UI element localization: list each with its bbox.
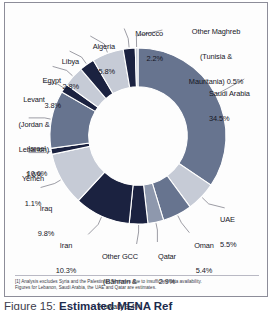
figure-caption: Figure 15: Estimated MENA Ref (4, 300, 270, 310)
slice-label-saudi-arabia-name: Saudi Arabia (209, 90, 267, 98)
figure-footnote: [1] Analysis excludes Syria and the Pale… (15, 275, 259, 291)
slice-label-iraq-name: Iraq (27, 205, 65, 213)
slice-label-levant-line1: Levant (7, 96, 61, 104)
slice-label-saudi-arabia: Saudi Arabia 34.5% (209, 73, 267, 140)
slice-label-other-maghreb-line2: (Tunisia & (167, 53, 265, 61)
slice-label-oman-name: Oman (185, 242, 223, 250)
slice-label-morocco-name: Morocco (111, 30, 163, 38)
slice-label-other-maghreb-line1: Other Maghreb (167, 28, 265, 36)
slice-label-uae: UAE 5.5% (220, 199, 262, 266)
slice-label-uae-value: 5.5% (220, 241, 262, 249)
slice-label-morocco: Morocco 2.2% (111, 13, 163, 80)
slice-label-qatar-name: Qatar (149, 253, 185, 261)
slice-label-iran-name: Iran (47, 242, 85, 250)
slice-label-qatar: Qatar 2.9% (149, 236, 185, 303)
figure-caption-title: Estimated MENA Ref (59, 300, 172, 310)
figure-caption-number: Figure 15: (4, 300, 56, 310)
slice-label-saudi-arabia-value: 34.5% (209, 115, 267, 123)
slice-label-uae-name: UAE (220, 216, 262, 224)
slice-label-israel-name: Israel (17, 145, 57, 153)
slice-label-yemen-name: Yemen (11, 175, 55, 183)
slice-label-morocco-value: 2.2% (111, 55, 163, 63)
donut-chart: Morocco 2.2% Other Maghreb (Tunisia & Ma… (5, 3, 269, 275)
footnote-line-2: Figures for Lebanon, Saudi Arabia, the U… (15, 285, 259, 291)
leader-line-iran (88, 217, 101, 234)
slice-label-other-gcc-line1: Other GCC (89, 253, 151, 261)
figure-frame: Morocco 2.2% Other Maghreb (Tunisia & Ma… (4, 2, 268, 297)
